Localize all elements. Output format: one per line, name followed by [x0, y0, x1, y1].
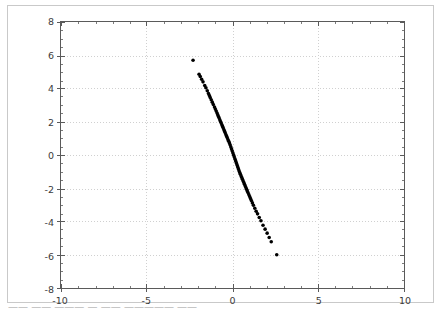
figure-root: 86420-2-4-6-8 -10-50510 —— —— ——— — —— —…: [0, 0, 444, 314]
y-tick-label: 8: [20, 16, 54, 27]
y-tick-label: 6: [20, 49, 54, 60]
y-tick-label: 2: [20, 116, 54, 127]
data-point: [275, 253, 279, 257]
data-point: [191, 58, 195, 62]
data-point: [261, 223, 265, 227]
scatter-plot-axes: [60, 21, 405, 289]
data-point: [267, 236, 271, 240]
data-point: [257, 216, 261, 220]
bottom-cutoff-text-strip: —— —— ——— — —— ————— ——: [8, 305, 308, 314]
data-point: [256, 212, 260, 216]
x-tick-label: 10: [399, 295, 411, 306]
series-0: [191, 58, 278, 256]
y-tick-label: -2: [20, 183, 54, 194]
y-tick-label: 4: [20, 83, 54, 94]
y-tick-label: -6: [20, 250, 54, 261]
data-points-layer: [61, 22, 404, 288]
data-point: [263, 227, 267, 231]
y-tick-label: 0: [20, 150, 54, 161]
data-point: [269, 240, 273, 244]
bottom-cutoff-text: —— —— ——— — —— ————— ——: [8, 305, 308, 311]
data-point: [265, 231, 269, 235]
data-point: [201, 80, 205, 84]
x-tick-label: 5: [316, 295, 322, 306]
y-tick-label: -4: [20, 217, 54, 228]
data-point: [259, 219, 263, 223]
y-tick-label: -8: [20, 284, 54, 295]
